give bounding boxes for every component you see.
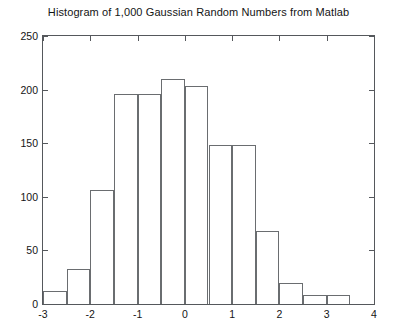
chart-title: Histogram of 1,000 Gaussian Random Numbe… [0, 6, 397, 18]
histogram-bar [67, 269, 91, 304]
x-axis-label: 3 [324, 308, 330, 320]
x-axis-label: -2 [86, 308, 95, 320]
y-axis-label: 0 [32, 298, 38, 310]
x-axis-label: -1 [133, 308, 142, 320]
histogram-bars [43, 36, 374, 304]
histogram-bar [90, 190, 114, 304]
histogram-bar [303, 295, 327, 304]
histogram-bar [114, 94, 138, 304]
y-axis-label: 250 [20, 30, 38, 42]
x-axis-label: 1 [229, 308, 235, 320]
plot-area: 050100150200250 -3-2-101234 [42, 35, 375, 305]
histogram-figure: Histogram of 1,000 Gaussian Random Numbe… [0, 0, 397, 331]
x-axis-label: 2 [277, 308, 283, 320]
histogram-bar [138, 94, 162, 304]
x-axis-label: 4 [371, 308, 377, 320]
y-axis-label: 100 [20, 191, 38, 203]
histogram-bar [185, 86, 209, 304]
y-tick-mark-right [369, 304, 374, 305]
histogram-bar [43, 291, 67, 304]
x-axis-label: -3 [38, 308, 47, 320]
y-axis-label: 50 [26, 244, 38, 256]
histogram-bar [232, 145, 256, 304]
histogram-bar [327, 295, 351, 304]
histogram-bar [161, 79, 185, 304]
y-tick-mark [43, 304, 48, 305]
histogram-bar [279, 283, 303, 304]
x-tick-mark [374, 299, 375, 304]
x-axis-label: 0 [182, 308, 188, 320]
histogram-bar [209, 145, 233, 304]
histogram-bar [256, 231, 280, 304]
y-axis-label: 200 [20, 84, 38, 96]
y-axis-label: 150 [20, 137, 38, 149]
x-tick-mark-top [374, 36, 375, 41]
